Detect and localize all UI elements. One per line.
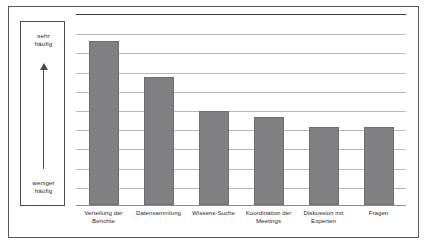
category-label-line: Experten <box>289 217 358 225</box>
bar <box>144 77 174 205</box>
scale-bottom-label-line2: häufig <box>21 187 66 195</box>
bar <box>364 127 394 205</box>
frequency-scale-box: sehr häufig weniger häufig <box>20 21 65 206</box>
scale-bottom-label: weniger häufig <box>21 179 66 195</box>
category-label-line: Fragen <box>344 209 413 217</box>
category-label: Fragen <box>344 209 413 217</box>
scale-top-label-line1: sehr <box>21 32 66 40</box>
bars-layer <box>76 15 406 205</box>
upward-arrow-icon <box>43 64 44 169</box>
category-axis-labels: Verteilung derBerichteDatensammlungWisse… <box>76 209 406 235</box>
scale-top-label-line2: häufig <box>21 40 66 48</box>
bar <box>254 117 284 205</box>
bar <box>309 127 339 205</box>
bar <box>199 111 229 205</box>
bar <box>89 41 119 205</box>
plot-area <box>76 14 406 206</box>
scale-bottom-label-line1: weniger <box>21 179 66 187</box>
scale-top-label: sehr häufig <box>21 32 66 48</box>
category-label-line: Berichte <box>69 217 138 225</box>
chart-figure: sehr häufig weniger häufig Verteilung de… <box>0 0 430 249</box>
